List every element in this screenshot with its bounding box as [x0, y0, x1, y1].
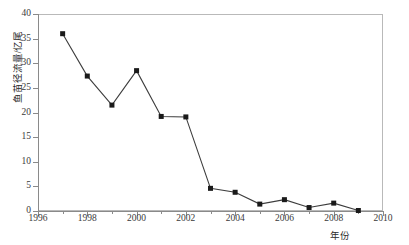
x-tick-minor	[309, 211, 310, 214]
y-tick	[33, 186, 38, 187]
y-axis-title: 鱼苗径流量/亿尾	[10, 12, 24, 122]
y-tick	[33, 14, 38, 15]
y-tick	[33, 39, 38, 40]
x-tick-minor	[260, 211, 261, 214]
y-tick-label: 5	[0, 181, 31, 191]
x-tick-label: 1996	[29, 214, 48, 224]
y-axis-spine	[38, 14, 39, 212]
y-tick	[33, 88, 38, 89]
x-tick-minor	[63, 211, 64, 214]
x-axis-title: 年份	[330, 228, 350, 242]
x-tick-label: 2002	[176, 214, 195, 224]
y-tick	[33, 63, 38, 64]
y-tick-label: 15	[0, 132, 31, 142]
y-tick	[33, 137, 38, 138]
y-tick-label: 10	[0, 157, 31, 167]
chart-title	[0, 0, 409, 4]
y-tick-label: 0	[0, 206, 31, 216]
x-tick-label: 2004	[226, 214, 245, 224]
x-tick-label: 2006	[275, 214, 294, 224]
x-tick-minor	[112, 211, 113, 214]
y-tick	[33, 113, 38, 114]
x-tick-label: 2000	[127, 214, 146, 224]
x-tick-minor	[358, 211, 359, 214]
y-tick	[33, 162, 38, 163]
x-tick-label: 2008	[324, 214, 343, 224]
x-tick-label: 1998	[78, 214, 97, 224]
x-tick-minor	[211, 211, 212, 214]
x-tick-label: 2010	[374, 214, 393, 224]
plot-area	[38, 14, 383, 211]
x-tick-minor	[161, 211, 162, 214]
line-chart: 0510152025303540 19961998200020022004200…	[0, 0, 409, 245]
